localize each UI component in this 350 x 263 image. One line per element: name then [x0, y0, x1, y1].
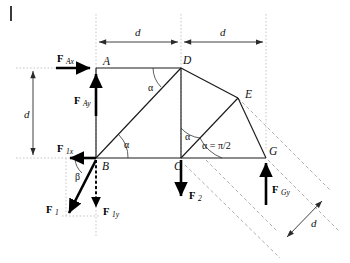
dimension-label-diagonal-d: d	[311, 217, 317, 229]
dimension-label-top-left-d: d	[135, 26, 141, 38]
member-B-D	[96, 68, 181, 158]
force-label-F-Ay-subscript: Ay	[82, 99, 91, 108]
force-label-F-Ay-symbol: F	[74, 95, 80, 106]
truss-members	[96, 68, 266, 158]
dimension-label-top-right-d: d	[220, 26, 226, 38]
diagonal-dimension-construction	[185, 98, 340, 258]
force-label-F-1x-subscript: 1x	[66, 147, 74, 156]
force-label-F-1-subscript: 1	[55, 208, 59, 217]
angle-label-alpha-half-pi: α = π/2	[202, 140, 231, 151]
force-label-F-Ax-symbol: F	[57, 53, 63, 64]
dash-line-from-E	[238, 98, 330, 190]
force-label-F-1y-symbol: F	[103, 206, 109, 217]
force-label-F-2: F 2	[189, 190, 202, 203]
force-label-F-1y-subscript: 1y	[112, 210, 120, 219]
force-label-F-Ax: F Ax	[57, 53, 75, 66]
figure-page: A B C D E G α α α α = π/2 β d d d d F	[0, 0, 350, 263]
node-label-E: E	[244, 88, 252, 100]
construction-lines	[16, 14, 266, 236]
force-label-F-Gy: F Gy	[272, 184, 290, 197]
force-label-F-1x: F 1x	[57, 143, 74, 156]
angle-label-beta-at-B: β	[75, 171, 80, 182]
member-D-E	[181, 68, 238, 98]
node-label-C: C	[174, 160, 182, 172]
node-label-G: G	[269, 145, 278, 157]
dimension-diagonal-d	[287, 201, 322, 237]
angle-label-alpha-at-D: α	[148, 82, 154, 93]
arc-alpha-at-D	[153, 68, 161, 87]
force-arrow-F-1	[69, 160, 96, 213]
force-label-F-Ay: F Ay	[74, 95, 91, 108]
force-labels: F Ax F Ay F 1x F 1y F 1	[46, 53, 290, 219]
angle-label-alpha-at-B: α	[124, 139, 130, 150]
force-label-F-Gy-symbol: F	[272, 184, 278, 195]
force-label-F-2-symbol: F	[189, 190, 195, 201]
dash-line-through-G	[268, 160, 340, 232]
force-label-F-Ax-subscript: Ax	[65, 57, 75, 66]
member-E-G	[238, 98, 266, 158]
dimension-label-left-d: d	[24, 108, 30, 120]
force-label-F-Gy-subscript: Gy	[281, 188, 290, 197]
node-labels: A B C D E G	[102, 54, 278, 172]
force-label-F-2-subscript: 2	[198, 194, 202, 203]
force-label-F-1-symbol: F	[46, 204, 52, 215]
angle-label-alpha-at-C: α	[185, 131, 191, 142]
node-label-D: D	[182, 54, 192, 66]
force-label-F-1: F 1	[46, 204, 59, 217]
arc-alpha-at-C	[181, 128, 200, 138]
force-label-F-1y: F 1y	[103, 206, 120, 219]
force-label-F-1x-symbol: F	[57, 143, 63, 154]
node-label-A: A	[102, 55, 111, 67]
truss-free-body-diagram: A B C D E G α α α α = π/2 β d d d d F	[0, 0, 350, 263]
node-label-B: B	[102, 160, 109, 172]
